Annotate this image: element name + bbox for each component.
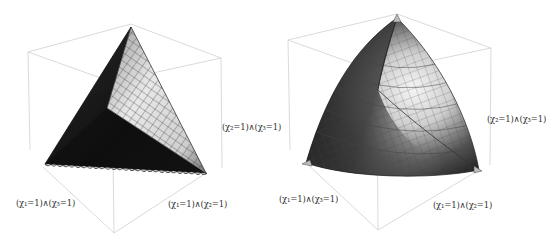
left-label-x1-x3: (χ₁=1)∧(χ₃=1) [16,198,75,208]
figure: (χ₂=1)∧(χ₃=1) (χ₁=1)∧(χ₃=1) (χ₁=1)∧(χ₂=1… [0,0,559,242]
left-tetrahedron-surface [45,27,207,175]
left-label-x2-x3: (χ₂=1)∧(χ₃=1) [222,122,281,132]
right-label-x2-x3: (χ₂=1)∧(χ₃=1) [487,114,546,124]
right-curved-surface [290,10,490,185]
right-label-x1-x2: (χ₁=1)∧(χ₂=1) [433,200,492,210]
left-label-x1-x2: (χ₁=1)∧(χ₂=1) [168,199,227,209]
right-label-x1-x3: (χ₁=1)∧(χ₃=1) [279,194,338,204]
